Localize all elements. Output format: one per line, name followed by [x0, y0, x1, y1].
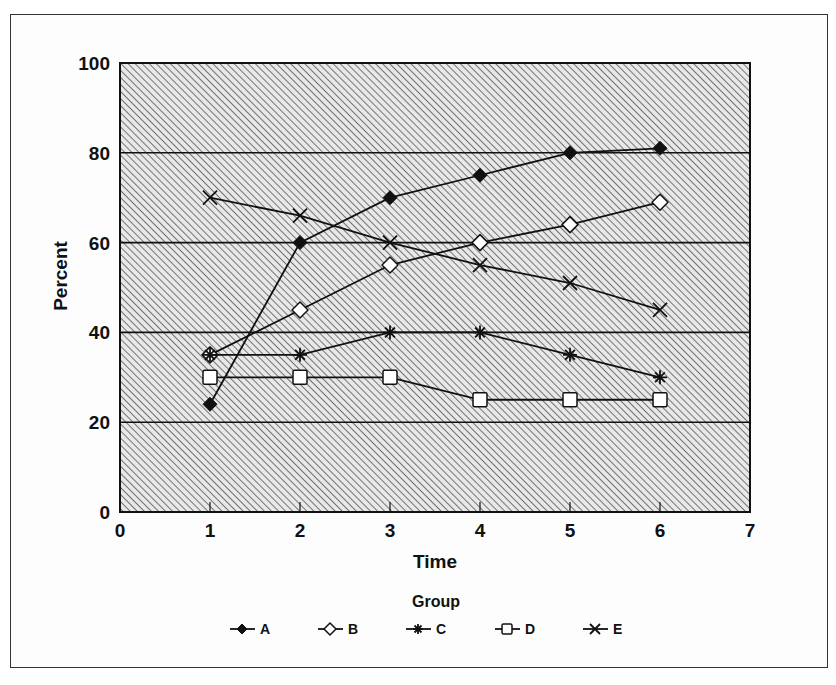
- legend-item-c: C: [406, 621, 446, 637]
- line-chart: 01234567 020406080100 Time Percent Group…: [0, 0, 836, 685]
- legend-label: B: [348, 621, 358, 637]
- y-tick-label: 40: [89, 322, 110, 343]
- plot-area: [120, 63, 750, 512]
- legend-label: D: [525, 621, 535, 637]
- x-tick-label: 5: [565, 520, 576, 541]
- x-tick-label: 1: [205, 520, 216, 541]
- x-tick-label: 3: [385, 520, 396, 541]
- legend-item-d: D: [495, 621, 535, 637]
- x-tick-label: 6: [655, 520, 666, 541]
- legend-label: C: [436, 621, 446, 637]
- y-tick-label: 100: [78, 53, 110, 74]
- legend: ABCDE: [230, 621, 622, 637]
- y-tick-label: 60: [89, 233, 110, 254]
- y-axis-label: Percent: [50, 240, 71, 310]
- y-tick-label: 0: [99, 502, 110, 523]
- legend-item-a: A: [230, 621, 270, 637]
- x-tick-label: 0: [115, 520, 126, 541]
- x-tick-label: 4: [475, 520, 486, 541]
- y-tick-label: 80: [89, 143, 110, 164]
- x-tick-label: 7: [745, 520, 756, 541]
- legend-item-e: E: [583, 621, 622, 637]
- legend-label: A: [260, 621, 270, 637]
- legend-item-b: B: [318, 621, 358, 637]
- legend-title: Group: [412, 593, 460, 610]
- y-axis-ticks: 020406080100: [78, 53, 110, 523]
- x-tick-label: 2: [295, 520, 306, 541]
- legend-label: E: [613, 621, 622, 637]
- y-tick-label: 20: [89, 412, 110, 433]
- x-axis-label: Time: [413, 551, 457, 572]
